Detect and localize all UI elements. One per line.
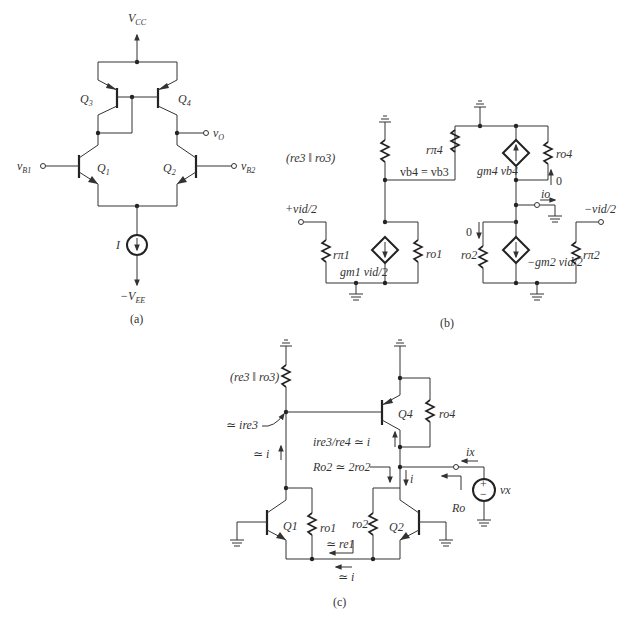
transistor-q4: Q4 xyxy=(158,80,191,115)
resistor-re3-ro3 xyxy=(381,140,389,162)
label-ro4-c: ro4 xyxy=(439,407,455,421)
ground-icon xyxy=(349,294,363,300)
label-q3: Q3 xyxy=(80,92,93,108)
voltage-source-vx: + − vx xyxy=(473,477,511,501)
resistor-rpi1 xyxy=(322,240,330,262)
resistor-ro1 xyxy=(414,240,422,262)
caption-a: (a) xyxy=(130,312,143,326)
resistor-re3-ro3-c xyxy=(282,365,290,387)
terminal-plus-vid xyxy=(299,220,304,225)
ground-icon xyxy=(439,540,453,546)
label-ro2-c: ro2 xyxy=(352,517,368,531)
label-vee: −VEE xyxy=(120,289,145,305)
terminal-output xyxy=(454,465,459,470)
ground-icon xyxy=(548,216,562,222)
label-ix: ix xyxy=(466,445,475,459)
transistor-q1-c: Q1 xyxy=(267,490,298,540)
terminal-vo xyxy=(204,131,209,136)
transistor-q3: Q3 xyxy=(80,80,117,115)
label-approx-ire3: ≃ ire3 xyxy=(226,418,258,432)
label-vb2: vB2 xyxy=(241,159,255,175)
ground-icon xyxy=(474,101,486,107)
label-zero-left: 0 xyxy=(466,225,472,239)
label-zero-top: 0 xyxy=(556,174,562,188)
label-approx-i: ≃ i xyxy=(253,447,269,461)
label-ro2-eq: Ro2 ≃ 2ro2 xyxy=(312,460,371,474)
terminal-vb2 xyxy=(232,164,237,169)
ground-icon xyxy=(280,340,292,346)
transistor-q2-c: Q2 xyxy=(389,500,419,540)
label-vb4-eq: vb4 = vb3 xyxy=(400,165,449,179)
label-vx: vx xyxy=(500,483,511,497)
terminal-vb1 xyxy=(41,164,46,169)
panel-a-diff-amp: VCC Q3 Q4 vO xyxy=(17,11,255,326)
label-vb1: vB1 xyxy=(17,159,31,175)
label-q1-c: Q1 xyxy=(283,519,298,533)
panel-b-small-signal: (re3 ‖ ro3) vb4 = vb3 gm1 vid/2 ro1 +vid… xyxy=(285,101,616,330)
label-q1: Q1 xyxy=(97,161,110,177)
label-minus-vid: −vid/2 xyxy=(584,202,616,216)
label-ire3-re4: ire3/re4 ≃ i xyxy=(313,435,370,449)
label-gm1: gm1 vid/2 xyxy=(340,265,388,279)
label-approx-i-bottom: ≃ i xyxy=(338,570,354,584)
label-ro1-c: ro1 xyxy=(320,521,336,535)
transistor-q4-c: Q4 xyxy=(382,395,413,430)
label-ro1: ro1 xyxy=(426,247,442,261)
label-vo: vO xyxy=(213,126,224,142)
svg-text:−: − xyxy=(480,487,487,501)
ground-icon xyxy=(379,116,391,122)
circuit-figure: VCC Q3 Q4 vO xyxy=(0,0,638,619)
transistor-q2: Q2 xyxy=(163,145,196,184)
label-re3-ro3-c: (re3 ‖ ro3) xyxy=(230,370,279,384)
ground-icon xyxy=(394,340,406,346)
transistor-q1: Q1 xyxy=(79,145,110,184)
current-source-i: I xyxy=(115,235,147,255)
label-ro: Ro xyxy=(451,501,465,515)
panel-c-output-resistance: (re3 ‖ ro3) ≃ ire3 ≃ i Q4 ro4 ire3/re4 ≃… xyxy=(226,340,511,609)
label-rpi2: rπ2 xyxy=(583,248,600,262)
label-ro4: ro4 xyxy=(556,147,572,161)
ground-icon xyxy=(530,294,544,300)
resistor-ro4-c xyxy=(426,400,434,422)
label-q4: Q4 xyxy=(178,92,191,108)
label-i: i xyxy=(410,472,413,486)
label-approx-re1: ≃ re1 xyxy=(326,537,355,551)
resistor-ro2 xyxy=(479,246,487,268)
label-current-i: I xyxy=(115,238,121,252)
label-io: io xyxy=(541,187,550,201)
terminal-io xyxy=(535,203,540,208)
ground-icon xyxy=(477,520,491,526)
caption-c: (c) xyxy=(333,595,346,609)
label-rpi1: rπ1 xyxy=(333,248,350,262)
ground-icon xyxy=(230,540,244,546)
label-vcc: VCC xyxy=(128,11,147,27)
resistor-ro2-c xyxy=(369,513,377,535)
label-q2-c: Q2 xyxy=(389,520,404,534)
terminal-minus-vid xyxy=(599,220,604,225)
label-re3-ro3: (re3 ‖ ro3) xyxy=(286,151,335,165)
label-q4-c: Q4 xyxy=(398,407,413,421)
resistor-ro4 xyxy=(544,142,552,164)
resistor-ro1-c xyxy=(308,513,316,535)
label-gm4: gm4 vb4 xyxy=(477,164,518,178)
label-rpi4: rπ4 xyxy=(426,143,443,157)
label-q2: Q2 xyxy=(163,161,176,177)
caption-b: (b) xyxy=(440,316,454,330)
label-ro2: ro2 xyxy=(461,248,477,262)
label-plus-vid: +vid/2 xyxy=(285,202,317,216)
